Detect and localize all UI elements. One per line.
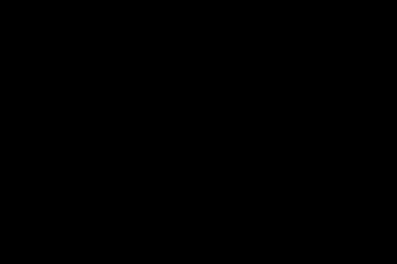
paper-background <box>0 0 397 264</box>
illustration-canvas <box>0 0 397 264</box>
sputnik-illustration <box>0 0 397 264</box>
